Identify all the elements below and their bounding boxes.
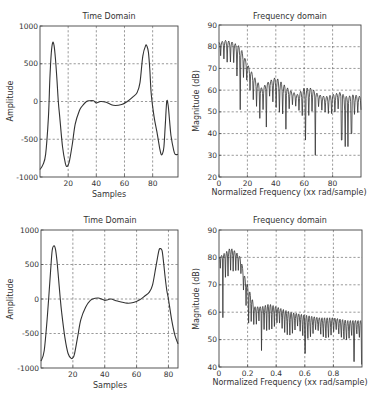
y-tick-label: 30 — [207, 151, 217, 160]
y-tick-labels: -1000-50005001000 — [17, 226, 43, 373]
x-tick-label: 80 — [148, 179, 158, 188]
y-tick-label: 40 — [207, 129, 217, 138]
y-axis-label: Amplitude — [6, 80, 15, 121]
x-tick-label: 20 — [68, 370, 78, 379]
x-tick-labels: 20406080 — [63, 175, 157, 189]
panel-top-right-frequency-domain: Frequency domain 020406080 2030405060708… — [192, 12, 367, 197]
chart-title: Frequency domain — [253, 12, 327, 21]
y-tick-label: 20 — [207, 173, 217, 182]
y-tick-label: 80 — [207, 253, 217, 262]
y-tick-label: 50 — [207, 107, 217, 116]
x-tick-label: 20 — [243, 179, 253, 188]
x-tick-labels: 00.20.40.60.8 — [217, 365, 340, 379]
panel-top-left-time-domain: Time Domain 20406080 -1000-50005001000 S… — [6, 12, 178, 199]
y-tick-label: 70 — [207, 64, 217, 73]
y-tick-label: 500 — [24, 59, 39, 68]
series-line-signal — [40, 42, 178, 169]
x-tick-label: 80 — [164, 370, 174, 379]
y-tick-label: 60 — [207, 86, 217, 95]
y-tick-label: 60 — [207, 308, 217, 317]
y-axis-label: Magnitude (dB) — [192, 70, 201, 132]
x-axis-label: Samples — [93, 381, 127, 390]
x-tick-label: 40 — [100, 370, 110, 379]
x-tick-label: 0.4 — [270, 369, 282, 378]
grid — [219, 230, 362, 367]
x-tick-labels: 020406080 — [217, 175, 338, 189]
series-line-magnitude — [219, 249, 362, 364]
y-tick-label: -500 — [21, 135, 38, 144]
y-tick-labels: -1000-50005001000 — [16, 22, 42, 182]
y-tick-label: -500 — [22, 329, 39, 338]
y-tick-label: 0 — [33, 97, 38, 106]
chart-title: Time Domain — [82, 216, 136, 225]
x-tick-label: 0 — [217, 179, 222, 188]
x-tick-label: 60 — [120, 179, 130, 188]
y-axis-label: Magnitude (dB) — [192, 268, 201, 330]
y-tick-label: 90 — [207, 21, 217, 30]
chart-title: Time Domain — [81, 12, 135, 21]
y-tick-label: 70 — [207, 280, 217, 289]
x-tick-label: 0 — [217, 369, 222, 378]
y-tick-label: 0 — [34, 295, 39, 304]
x-axis-label: Normalized Frequency (xx rad/sample) — [211, 188, 366, 197]
y-tick-label: 50 — [207, 335, 217, 344]
y-tick-label: 500 — [25, 260, 40, 269]
y-tick-label: 1000 — [19, 22, 38, 31]
x-tick-label: 60 — [299, 179, 309, 188]
grid — [40, 26, 178, 177]
y-tick-label: 40 — [207, 363, 217, 372]
series-line-signal — [41, 246, 178, 361]
x-axis-label: Normalized Frequency (xx rad/sample) — [212, 378, 367, 387]
panel-bottom-left-time-domain: Time Domain 20406080 -1000-50005001000 S… — [6, 216, 178, 390]
x-tick-label: 40 — [92, 179, 102, 188]
y-tick-label: -1000 — [17, 364, 39, 373]
y-tick-label: 90 — [207, 226, 217, 235]
y-tick-label: -1000 — [16, 173, 38, 182]
plot-frame — [219, 230, 362, 367]
x-tick-label: 40 — [271, 179, 281, 188]
panel-bottom-right-frequency-domain: Frequency domain 00.20.40.60.8 405060708… — [192, 216, 368, 387]
x-tick-labels: 20406080 — [68, 366, 173, 380]
x-tick-label: 0.8 — [327, 369, 339, 378]
figure-canvas: Time Domain 20406080 -1000-50005001000 S… — [0, 0, 378, 403]
chart-title: Frequency domain — [253, 216, 327, 225]
x-tick-label: 60 — [132, 370, 142, 379]
y-axis-label: Amplitude — [6, 278, 15, 319]
x-tick-label: 0.6 — [299, 369, 311, 378]
y-tick-label: 80 — [207, 42, 217, 51]
x-tick-label: 20 — [63, 179, 73, 188]
series-line-magnitude — [219, 40, 361, 155]
y-tick-label: 1000 — [20, 226, 39, 235]
x-tick-label: 80 — [328, 179, 338, 188]
x-axis-label: Samples — [92, 190, 126, 199]
x-tick-label: 0.2 — [242, 369, 254, 378]
